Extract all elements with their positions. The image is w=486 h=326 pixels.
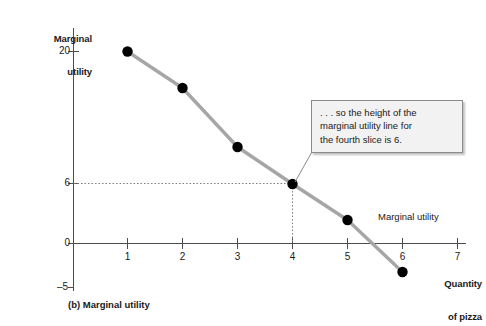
figure-caption: (b) Marginal utility: [68, 300, 150, 311]
annotation-line-2: marginal utility line for: [320, 119, 455, 132]
annotation-leader-line: [295, 150, 313, 182]
x-axis-title-line1: Quantity: [418, 279, 482, 290]
x-tick-label-4: 4: [281, 251, 305, 263]
x-tick-label-5: 5: [336, 251, 360, 263]
marginal-utility-line: [128, 52, 403, 273]
y-tick-label-0: 0: [40, 237, 70, 249]
y-tick-label-minus5: –5: [38, 281, 68, 293]
y-tick-label-6: 6: [40, 177, 70, 189]
x-axis-title: Quantity of pizza: [418, 257, 482, 326]
x-tick-label-3: 3: [226, 251, 250, 263]
data-point-5: [342, 215, 352, 225]
x-tick-label-6: 6: [391, 251, 415, 263]
y-tick-label-20: 20: [40, 45, 70, 57]
annotation-line-1: . . . so the height of the: [320, 106, 455, 119]
data-point-2: [177, 83, 187, 93]
annotation-callout: . . . so the height of the marginal util…: [311, 100, 463, 153]
data-point-1: [122, 46, 132, 56]
data-point-3: [232, 142, 242, 152]
annotation-line-3: the fourth slice is 6.: [320, 133, 455, 146]
x-tick-label-2: 2: [171, 251, 195, 263]
y-axis-title-line2: utility: [18, 67, 92, 78]
series-label-marginal-utility: Marginal utility: [378, 212, 439, 223]
x-axis-title-line2: of pizza: [418, 312, 482, 323]
y-axis-title-line1: Marginal: [18, 34, 92, 45]
x-tick-label-1: 1: [116, 251, 140, 263]
data-point-6: [397, 267, 407, 277]
